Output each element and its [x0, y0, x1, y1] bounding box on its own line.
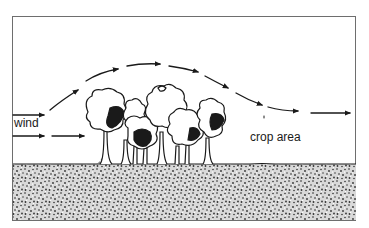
diagram-canvas — [0, 0, 369, 228]
ground-soil — [13, 158, 356, 220]
windbreak-diagram: wind crop area — [0, 0, 369, 228]
wind-label: wind — [14, 116, 39, 130]
crop-area-label: crop area — [250, 130, 301, 144]
